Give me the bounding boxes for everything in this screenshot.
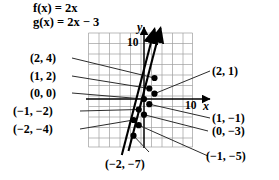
point-f-1-2 [146,85,152,91]
point-f-m1-m2 [136,106,142,112]
point-f-0-0 [141,96,147,102]
point-label-1-2: (1, 2) [30,69,56,84]
point-g-1-m1 [146,101,152,107]
leader-lines-left [72,58,155,129]
x-tick-label-10: 10 [185,99,197,111]
function-label-f: f(x) = 2x [33,1,78,16]
y-axis-label: y [137,20,142,35]
point-label-0-0: (0, 0) [30,86,56,101]
x-axis-label: x [203,99,209,114]
point-f-2-4 [151,75,157,81]
point-g-2-1 [151,91,157,97]
point-label-m2-m4: (−2, −4) [13,122,53,137]
point-label-2-4: (2, 4) [30,51,56,66]
point-label-m1-m5: (−1, −5) [206,149,246,164]
point-label-0-m3: (0, −3) [212,124,245,139]
point-g-m2-m7 [130,133,136,139]
point-g-m1-m5 [136,122,142,128]
function-label-g: g(x) = 2x − 3 [33,15,99,30]
leader-lines-right [139,71,210,156]
point-f-m2-m4 [130,117,136,123]
y-tick-label-10: 10 [127,36,139,48]
point-g-0-m3 [141,112,147,118]
point-label-2-1: (2, 1) [212,64,238,79]
point-label-m1-m2: (−1, −2) [13,104,53,119]
point-label-m2-m7: (−2, −7) [105,157,145,172]
grid [89,33,193,147]
